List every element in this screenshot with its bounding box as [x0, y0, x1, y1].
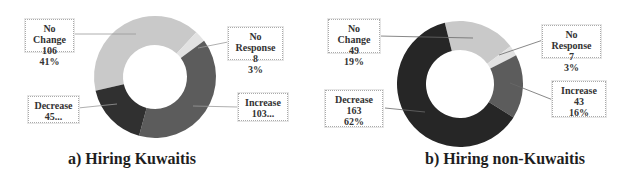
chart-hiring-non-kuwaitis: No Change 49 19% No Response 7 3% Increa…: [315, 0, 630, 179]
label-decrease-a: Decrease 45...: [28, 96, 79, 123]
label-no-response-a: No Response 8 3%: [228, 27, 283, 60]
donut-segments-b: [397, 21, 523, 147]
label-no-change-b: No Change 49 19%: [328, 19, 380, 53]
segment-decrease: [96, 84, 147, 136]
label-increase-a: Increase 103...: [238, 93, 288, 121]
label-no-change-a: No Change 106 41%: [25, 19, 74, 52]
chart-title-a: a) Hiring Kuwaitis: [68, 150, 196, 168]
chart-hiring-kuwaitis: No Change 106 41% No Response 8 3% Decre…: [0, 0, 315, 179]
label-increase-b: Increase 43 16%: [552, 81, 606, 117]
label-no-response-b: No Response 7 3%: [542, 25, 601, 58]
chart-title-b: b) Hiring non-Kuwaitis: [425, 150, 585, 168]
label-decrease-b: Decrease 163 62%: [325, 90, 383, 127]
segment-increase: [139, 41, 216, 138]
